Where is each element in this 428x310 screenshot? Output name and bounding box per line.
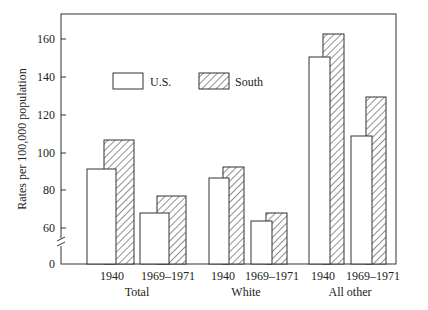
tick-60: 60 [43, 221, 55, 235]
bar-white-recent-us [251, 221, 272, 264]
label-white-1940: 1940 [211, 269, 235, 283]
tick-100: 100 [37, 146, 55, 160]
axis-break-icon [56, 237, 66, 246]
x-period-labels: 1940 1969–1971 1940 1969–1971 1940 1969–… [100, 269, 400, 283]
y-tick-labels: 160 140 120 100 80 60 0 [37, 32, 55, 271]
label-total-recent: 1969–1971 [141, 269, 195, 283]
y-ticks [61, 39, 66, 228]
tick-0: 0 [49, 257, 55, 271]
group-total: Total [125, 285, 150, 299]
label-total-1940: 1940 [100, 269, 124, 283]
tick-140: 140 [37, 70, 55, 84]
y-axis-label: Rates per 100,000 population [15, 68, 29, 209]
bar-white-1940-us [209, 178, 229, 264]
legend-south-swatch [199, 73, 229, 89]
bar-total-recent-us [140, 213, 169, 264]
group-all-other: All other [329, 285, 372, 299]
tick-80: 80 [43, 183, 55, 197]
bar-chart: 160 140 120 100 80 60 0 Rates per 100,00… [0, 0, 428, 310]
legend-us-swatch [113, 73, 143, 89]
x-group-labels: Total White All other [125, 285, 372, 299]
label-allother-recent: 1969–1971 [346, 269, 400, 283]
label-allother-1940: 1940 [311, 269, 335, 283]
bar-total-1940-us [87, 169, 116, 264]
bar-allother-recent-us [351, 136, 372, 264]
bar-allother-1940-us [309, 57, 330, 264]
group-white: White [231, 285, 260, 299]
bars [87, 34, 386, 264]
tick-160: 160 [37, 32, 55, 46]
legend: U.S. South [113, 73, 263, 89]
legend-us-label: U.S. [150, 75, 171, 89]
legend-south-label: South [235, 75, 263, 89]
tick-120: 120 [37, 108, 55, 122]
label-white-recent: 1969–1971 [245, 269, 299, 283]
